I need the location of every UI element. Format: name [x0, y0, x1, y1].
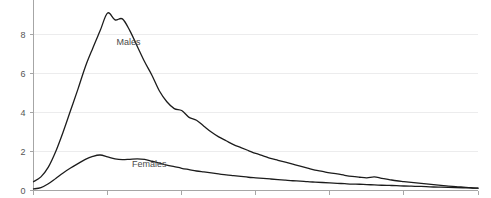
series-group [34, 13, 479, 189]
series-annotation-males: Males [116, 37, 141, 47]
y-tick-label-4: 4 [20, 108, 25, 118]
y-tick-label-8: 8 [20, 30, 25, 40]
gridlines-group [34, 35, 479, 152]
series-annotation-females: Females [132, 159, 167, 169]
series-line-males [34, 13, 479, 188]
tick-marks-group [30, 35, 479, 195]
chart-container: 02468 MalesFemales [0, 0, 491, 198]
axes-group [34, 0, 479, 191]
y-tick-labels-group: 02468 [20, 30, 25, 196]
y-tick-label-6: 6 [20, 69, 25, 79]
line-chart: 02468 MalesFemales [0, 0, 491, 198]
y-tick-label-2: 2 [20, 147, 25, 157]
y-tick-label-0: 0 [20, 186, 25, 196]
series-line-females [34, 155, 479, 189]
